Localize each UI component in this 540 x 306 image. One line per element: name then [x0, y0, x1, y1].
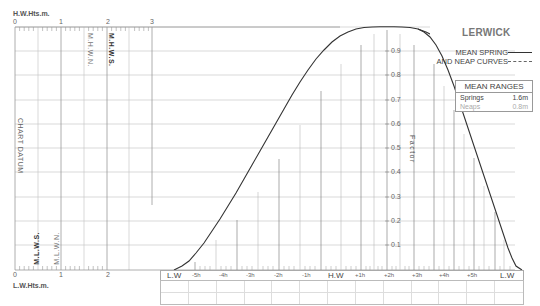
station-title: LERWICK	[462, 27, 511, 38]
neaps-label: Neaps	[460, 102, 480, 111]
time-cell[interactable]	[300, 281, 328, 293]
legend-line2: AND NEAP CURVES	[420, 57, 508, 66]
time-cell[interactable]	[328, 293, 356, 305]
time-cell[interactable]	[495, 293, 523, 305]
springs-value: 1.6m	[512, 93, 528, 102]
time-cell[interactable]	[356, 281, 384, 293]
time-cell[interactable]	[412, 281, 440, 293]
factor-tick-0.4: 0.4	[391, 168, 401, 175]
time-label-p5: +5h	[467, 272, 477, 278]
time-cell[interactable]	[189, 293, 217, 305]
legend-spring-solid-icon	[508, 52, 532, 53]
time-cell[interactable]	[384, 281, 412, 293]
time-cell[interactable]	[328, 281, 356, 293]
time-label-m1: -1h	[302, 272, 311, 278]
mhwn-label: M.H.W.N.	[87, 33, 94, 67]
chart-datum-label: CHART DATUM	[17, 118, 24, 174]
tidal-curve-diagram	[0, 0, 540, 306]
springs-label: Springs	[460, 93, 484, 102]
time-cell[interactable]	[217, 293, 245, 305]
time-label-m5: -5h	[192, 272, 201, 278]
factor-tick-0.2: 0.2	[391, 217, 401, 224]
legend-text: MEAN SPRING AND NEAP CURVES	[420, 48, 508, 66]
factor-tick-0.9: 0.9	[391, 47, 401, 54]
mean-ranges-box: MEAN RANGES Springs 1.6m Neaps 0.8m	[455, 80, 533, 112]
time-cell[interactable]	[161, 281, 189, 293]
time-cell[interactable]	[189, 281, 217, 293]
time-cell[interactable]	[439, 293, 467, 305]
mean-ranges-title: MEAN RANGES	[456, 81, 532, 93]
time-cell[interactable]	[161, 293, 189, 305]
time-cell[interactable]	[356, 293, 384, 305]
time-label-p4: +4h	[439, 272, 449, 278]
time-label-m4: -4h	[219, 272, 228, 278]
mean-ranges-neaps-row: Neaps 0.8m	[456, 102, 532, 111]
time-cell[interactable]	[272, 293, 300, 305]
time-cell[interactable]	[245, 293, 273, 305]
time-cell[interactable]	[467, 281, 495, 293]
time-cell[interactable]	[272, 281, 300, 293]
time-label-m2: -2h	[274, 272, 283, 278]
time-label-p2: +2h	[384, 272, 394, 278]
time-label-p1: +1h	[355, 272, 365, 278]
factor-axis-label: Factor	[409, 135, 416, 164]
time-cell[interactable]	[384, 293, 412, 305]
legend-neap-dashed-icon	[508, 61, 532, 62]
time-cell[interactable]	[245, 281, 273, 293]
factor-tick-0.5: 0.5	[391, 144, 401, 151]
mlwn-label: M.L.W.N.	[53, 232, 60, 265]
factor-tick-0.7: 0.7	[391, 96, 401, 103]
time-cell[interactable]	[439, 281, 467, 293]
factor-tick-0.6: 0.6	[391, 120, 401, 127]
neaps-value: 0.8m	[512, 102, 528, 111]
time-cell[interactable]	[217, 281, 245, 293]
time-cell[interactable]	[495, 281, 523, 293]
time-cell[interactable]	[300, 293, 328, 305]
time-label-lw-right: L.W	[500, 271, 514, 280]
factor-tick-0.3: 0.3	[391, 193, 401, 200]
factor-tick-0.8: 0.8	[391, 71, 401, 78]
time-cell[interactable]	[412, 293, 440, 305]
time-label-m3: -3h	[246, 272, 255, 278]
time-entry-grid	[160, 280, 524, 305]
time-label-hw: H.W	[328, 271, 344, 280]
mean-ranges-springs-row: Springs 1.6m	[456, 93, 532, 102]
mlws-label: M.L.W.S.	[33, 232, 40, 265]
time-label-lw-left: L.W	[167, 271, 181, 280]
time-label-p3: +3h	[412, 272, 422, 278]
factor-tick-0.1: 0.1	[391, 241, 401, 248]
time-cell[interactable]	[467, 293, 495, 305]
legend-line1: MEAN SPRING	[420, 48, 508, 57]
mhws-label: M.H.W.S.	[108, 33, 115, 67]
